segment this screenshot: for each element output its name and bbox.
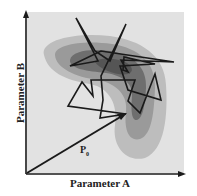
vector-label: P0: [80, 144, 89, 157]
parameter-space-diagram: Parameter B Parameter A P0: [0, 0, 197, 196]
vector-label-subscript: 0: [86, 151, 89, 157]
x-axis-label: Parameter A: [70, 177, 130, 189]
y-axis-label: Parameter B: [14, 53, 26, 133]
diagram-canvas: [0, 0, 197, 196]
